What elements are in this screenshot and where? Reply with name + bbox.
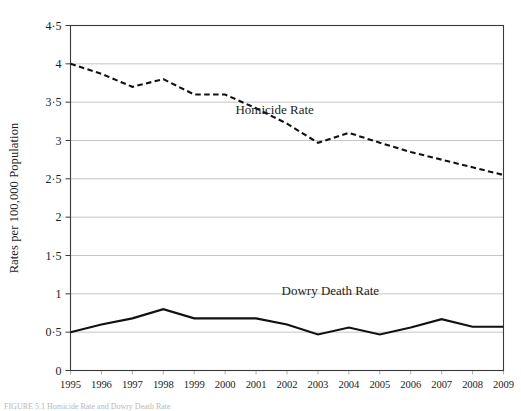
x-tick-label: 2008 — [462, 379, 483, 390]
y-axis-title: Rates per 100,000 Population — [7, 122, 21, 273]
x-tick-label: 1996 — [91, 379, 112, 390]
plot-area-border — [71, 26, 504, 371]
y-tick-label: 4·5 — [46, 19, 62, 33]
x-tick-label: 2002 — [277, 379, 298, 390]
x-tick-label: 2007 — [431, 379, 452, 390]
series-line-homicide-rate — [71, 64, 504, 175]
homicide-rate-label: Homicide Rate — [235, 102, 314, 117]
series-labels: Homicide RateDowry Death Rate — [235, 102, 379, 299]
y-tick-label: 3 — [56, 134, 62, 148]
y-tick-label: 1·5 — [46, 249, 62, 263]
plot-frame — [71, 26, 504, 371]
x-tick-label: 2009 — [493, 379, 514, 390]
y-tick-label: 1 — [56, 287, 62, 301]
figure-caption-text: FIGURE 5.1 Homicide Rate and Dowry Death… — [4, 402, 171, 411]
x-tick-label: 2001 — [246, 379, 267, 390]
y-tick-label: 2 — [56, 210, 62, 224]
figure-caption: FIGURE 5.1 Homicide Rate and Dowry Death… — [4, 402, 171, 411]
x-tick-label: 2005 — [369, 379, 390, 390]
series-line-dowry-death-rate — [71, 309, 504, 334]
x-tick-label: 2003 — [308, 379, 329, 390]
y-tick-label: 0 — [56, 364, 62, 378]
x-tick-label: 2004 — [338, 379, 360, 390]
y-axis-title-text: Rates per 100,000 Population — [7, 122, 21, 273]
y-tick-marks — [66, 26, 71, 371]
x-tick-label: 1995 — [60, 379, 81, 390]
x-tick-label: 2006 — [400, 379, 421, 390]
y-tick-label: 3·5 — [46, 95, 62, 109]
y-tick-label: 4 — [56, 57, 62, 71]
x-tick-label: 1997 — [122, 379, 143, 390]
y-tick-labels: 00·511·522·533·544·5 — [46, 19, 62, 378]
y-tick-label: 0·5 — [46, 325, 62, 339]
x-tick-label: 1998 — [153, 379, 174, 390]
x-tick-marks — [71, 371, 504, 375]
x-tick-labels: 1995199619971998199920002001200220032004… — [60, 379, 514, 390]
y-tick-label: 2·5 — [46, 172, 62, 186]
figure-container: 00·511·522·533·544·5 1995199619971998199… — [0, 0, 521, 411]
x-tick-label: 1999 — [184, 379, 205, 390]
dowry-death-rate-label: Dowry Death Rate — [282, 283, 380, 298]
x-tick-label: 2000 — [215, 379, 236, 390]
line-chart: 00·511·522·533·544·5 1995199619971998199… — [0, 0, 521, 411]
